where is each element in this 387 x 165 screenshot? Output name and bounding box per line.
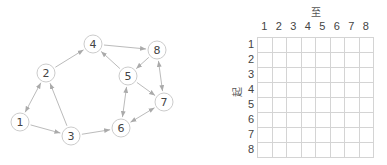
column-header: 3 [286, 20, 301, 32]
matrix-cell[interactable] [330, 38, 345, 53]
row-header: 8 [242, 142, 254, 157]
matrix-cell[interactable] [316, 128, 331, 143]
column-header: 7 [344, 20, 359, 32]
matrix-cell[interactable] [345, 38, 360, 53]
matrix-cell[interactable] [287, 113, 302, 128]
matrix-cell[interactable] [316, 98, 331, 113]
matrix-cell[interactable] [287, 68, 302, 83]
matrix-row [258, 113, 374, 128]
matrix-cell[interactable] [359, 53, 374, 68]
matrix-cell[interactable] [301, 98, 316, 113]
matrix-cell[interactable] [345, 128, 360, 143]
column-header: 2 [272, 20, 287, 32]
matrix-cell[interactable] [345, 68, 360, 83]
matrix-cell[interactable] [359, 83, 374, 98]
matrix-cell[interactable] [330, 68, 345, 83]
matrix-cell[interactable] [258, 128, 273, 143]
matrix-cell[interactable] [272, 68, 287, 83]
matrix-cell[interactable] [272, 38, 287, 53]
matrix-cell[interactable] [301, 68, 316, 83]
matrix-cell[interactable] [345, 143, 360, 158]
matrix-cell[interactable] [359, 143, 374, 158]
matrix-cell[interactable] [287, 83, 302, 98]
matrix-cell[interactable] [316, 143, 331, 158]
matrix-cell[interactable] [330, 143, 345, 158]
row-header: 1 [242, 37, 254, 52]
matrix-cell[interactable] [258, 113, 273, 128]
column-axis-title: 至 [308, 4, 324, 19]
matrix-cell[interactable] [301, 128, 316, 143]
matrix-cell[interactable] [272, 113, 287, 128]
row-header: 4 [242, 82, 254, 97]
matrix-cell[interactable] [330, 98, 345, 113]
row-header: 6 [242, 112, 254, 127]
matrix-cell[interactable] [359, 98, 374, 113]
matrix-cell[interactable] [301, 53, 316, 68]
adjacency-matrix: 至 起 12345678 12345678 [0, 0, 387, 165]
matrix-cell[interactable] [359, 68, 374, 83]
matrix-row [258, 128, 374, 143]
column-header: 8 [359, 20, 374, 32]
matrix-cell[interactable] [330, 128, 345, 143]
matrix-cell[interactable] [258, 83, 273, 98]
matrix-cell[interactable] [330, 83, 345, 98]
matrix-cell[interactable] [316, 38, 331, 53]
matrix-cell[interactable] [330, 113, 345, 128]
row-header: 5 [242, 97, 254, 112]
matrix-cell[interactable] [258, 143, 273, 158]
matrix-cell[interactable] [301, 143, 316, 158]
matrix-cell[interactable] [301, 38, 316, 53]
matrix-cell[interactable] [316, 83, 331, 98]
column-header: 6 [330, 20, 345, 32]
matrix-cell[interactable] [316, 53, 331, 68]
matrix-cell[interactable] [258, 53, 273, 68]
matrix-cell[interactable] [301, 113, 316, 128]
matrix-grid [257, 37, 374, 158]
matrix-cell[interactable] [258, 38, 273, 53]
matrix-cell[interactable] [287, 128, 302, 143]
matrix-cell[interactable] [287, 38, 302, 53]
matrix-cell[interactable] [359, 113, 374, 128]
matrix-cell[interactable] [345, 53, 360, 68]
row-header: 2 [242, 52, 254, 67]
matrix-cell[interactable] [316, 113, 331, 128]
matrix-row [258, 38, 374, 53]
matrix-cell[interactable] [330, 53, 345, 68]
matrix-row [258, 83, 374, 98]
matrix-row [258, 53, 374, 68]
row-header: 3 [242, 67, 254, 82]
matrix-cell[interactable] [359, 128, 374, 143]
matrix-cell[interactable] [287, 143, 302, 158]
matrix-cell[interactable] [287, 53, 302, 68]
matrix-cell[interactable] [359, 38, 374, 53]
matrix-cell[interactable] [301, 83, 316, 98]
matrix-cell[interactable] [272, 98, 287, 113]
matrix-cell[interactable] [345, 113, 360, 128]
matrix-cell[interactable] [258, 98, 273, 113]
column-header: 1 [257, 20, 272, 32]
column-header: 5 [315, 20, 330, 32]
matrix-row [258, 68, 374, 83]
matrix-row [258, 143, 374, 158]
matrix-cell[interactable] [287, 98, 302, 113]
matrix-cell[interactable] [345, 98, 360, 113]
matrix-cell[interactable] [345, 83, 360, 98]
matrix-cell[interactable] [272, 53, 287, 68]
column-header: 4 [301, 20, 316, 32]
matrix-cell[interactable] [316, 68, 331, 83]
row-header: 7 [242, 127, 254, 142]
matrix-row [258, 98, 374, 113]
matrix-cell[interactable] [272, 143, 287, 158]
matrix-cell[interactable] [272, 128, 287, 143]
matrix-cell[interactable] [258, 68, 273, 83]
matrix-cell[interactable] [272, 83, 287, 98]
